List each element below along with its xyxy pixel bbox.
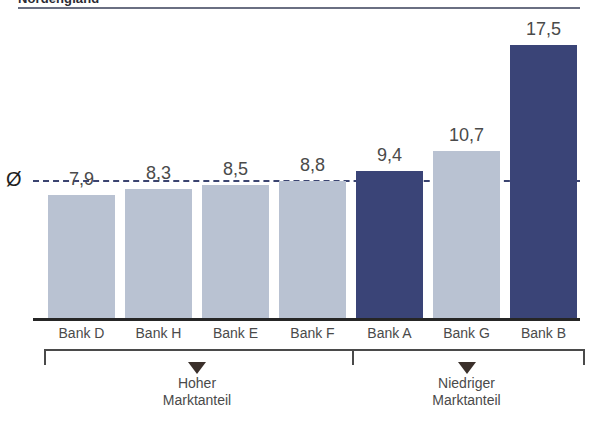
chart-figure: Nordengland Ø 7,9Bank D8,3Bank H8,5Bank … bbox=[0, 0, 595, 427]
average-symbol: Ø bbox=[6, 169, 22, 189]
x-axis-baseline bbox=[33, 318, 580, 321]
bar-value-label: 8,3 bbox=[125, 163, 192, 184]
bar-bank-e bbox=[202, 185, 269, 318]
x-tick-label: Bank D bbox=[44, 325, 119, 341]
group-bracket-arrow-icon bbox=[458, 362, 476, 374]
bar-value-label: 8,5 bbox=[202, 159, 269, 180]
bar-bank-d bbox=[48, 195, 115, 318]
group-bracket-caption: Niedriger Marktanteil bbox=[352, 375, 581, 409]
bar-bank-b bbox=[510, 45, 577, 318]
x-tick-label: Bank B bbox=[506, 325, 581, 341]
bar-bank-f bbox=[279, 181, 346, 318]
x-tick-label: Bank E bbox=[198, 325, 273, 341]
x-tick-label: Bank H bbox=[121, 325, 196, 341]
group-bracket-arrow-icon bbox=[188, 362, 206, 374]
x-tick-label: Bank G bbox=[429, 325, 504, 341]
plot-area: Ø 7,9Bank D8,3Bank H8,5Bank E8,8Bank F9,… bbox=[0, 0, 595, 427]
x-tick-label: Bank A bbox=[352, 325, 427, 341]
bar-bank-h bbox=[125, 189, 192, 318]
bar-value-label: 10,7 bbox=[433, 125, 500, 146]
bar-bank-a bbox=[356, 171, 423, 318]
bar-value-label: 9,4 bbox=[356, 145, 423, 166]
bar-value-label: 8,8 bbox=[279, 155, 346, 176]
group-bracket-caption: Hoher Marktanteil bbox=[44, 375, 350, 409]
bar-bank-g bbox=[433, 151, 500, 318]
bar-value-label: 7,9 bbox=[48, 169, 115, 190]
x-tick-label: Bank F bbox=[275, 325, 350, 341]
bar-value-label: 17,5 bbox=[510, 19, 577, 40]
